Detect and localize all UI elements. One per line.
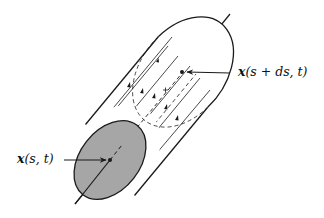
back-point-dot — [180, 70, 184, 74]
front-point-dot — [108, 158, 112, 162]
back-point-label: x(s + ds, t) — [238, 64, 307, 79]
front-point-label: x(s, t) — [17, 151, 54, 166]
back-point-args: (s + ds, t) — [245, 64, 307, 79]
front-point-args: (s, t) — [24, 151, 53, 166]
flux-tube-diagram — [0, 0, 324, 218]
